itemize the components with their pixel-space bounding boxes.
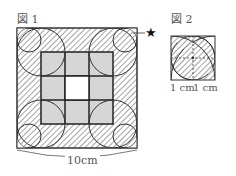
dimension-label-10cm: 10cm bbox=[65, 154, 100, 167]
star-marker: ★ bbox=[145, 25, 157, 40]
center-white-square bbox=[65, 76, 89, 100]
center-dot bbox=[192, 57, 194, 59]
dimension-label-1cm-right: 1 cm bbox=[193, 82, 218, 93]
figure2 bbox=[171, 36, 215, 80]
figure1 bbox=[17, 28, 145, 157]
dimension-label-1cm-left: 1 cm bbox=[170, 82, 195, 93]
